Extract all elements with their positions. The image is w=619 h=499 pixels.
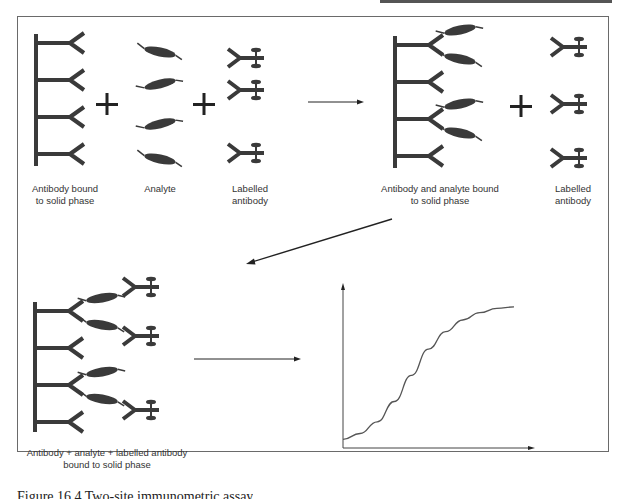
- label-labelled-antibody-2: Labelled antibody: [548, 183, 598, 207]
- figure-caption: Figure 16.4 Two-site immunometric assay: [17, 490, 253, 499]
- reaction-arrow-icon: [194, 357, 301, 362]
- label-labelled-antibody-1: Labelled antibody: [220, 183, 280, 207]
- immunoassay-diagram: [0, 0, 619, 499]
- analyte-molecules: [136, 43, 184, 169]
- reaction-arrow-icon: [308, 100, 364, 105]
- x-axis-arrow-icon: [528, 446, 535, 450]
- solid-phase-antibody-analyte: [393, 21, 483, 168]
- sigmoid-curve: [343, 307, 514, 439]
- dose-response-chart: [341, 283, 535, 450]
- labelled-antibodies-1: [228, 48, 264, 163]
- plus-icon: [193, 93, 215, 115]
- reaction-arrow-icon: [246, 219, 392, 265]
- plus-icon: [96, 93, 118, 115]
- y-axis-arrow-icon: [341, 283, 345, 290]
- labelled-antibodies-2: [551, 37, 587, 168]
- solid-phase-antibody-1: [34, 33, 84, 166]
- label-analyte: Analyte: [130, 183, 190, 195]
- label-sandwich-complex: Antibody + analyte + labelled antibody b…: [12, 447, 202, 471]
- sandwich-complex: [33, 277, 159, 432]
- plus-icon: [510, 95, 532, 117]
- label-antibody-analyte-solid-phase: Antibody and analyte bound to solid phas…: [365, 183, 515, 207]
- label-antibody-solid-phase: Antibody bound to solid phase: [20, 183, 110, 207]
